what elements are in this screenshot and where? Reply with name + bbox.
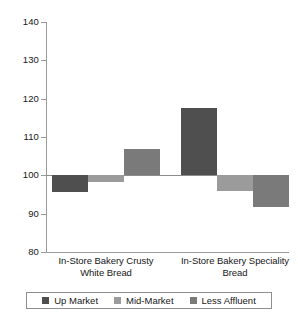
legend-label-less-affluent: Less Affluent [202, 295, 256, 306]
bar-chart: 8090100110120130140 In-Store Bakery Crus… [0, 0, 298, 318]
y-axis-line [46, 22, 47, 252]
legend-label-mid-market: Mid-Market [126, 295, 174, 306]
bar-mid-market-group-2 [217, 175, 253, 191]
bar-less-affluent-group-1 [124, 149, 160, 176]
y-tick-label: 100 [3, 170, 39, 180]
legend-swatch-icon-less-affluent [190, 297, 197, 304]
y-tick-mark [41, 22, 46, 23]
plot-area: 8090100110120130140 In-Store Bakery Crus… [0, 0, 298, 258]
bar-up-market-group-2 [181, 108, 217, 175]
category-label-line: White Bread [38, 267, 174, 279]
category-label-line: In-Store Bakery Speciality [167, 255, 298, 267]
chart-legend: Up Market Mid-Market Less Affluent [26, 292, 272, 309]
legend-swatch-icon-up-market [42, 297, 49, 304]
y-tick-label: 80 [3, 247, 39, 257]
category-label-line: Bread [167, 267, 298, 279]
y-tick-mark [41, 252, 46, 253]
category-label-2: In-Store Bakery SpecialityBread [167, 255, 298, 279]
y-tick-label: 140 [3, 17, 39, 27]
y-tick-mark [41, 214, 46, 215]
bar-up-market-group-1 [52, 175, 88, 192]
category-label-1: In-Store Bakery CrustyWhite Bread [38, 255, 174, 279]
y-tick-label: 120 [3, 94, 39, 104]
y-tick-mark [41, 137, 46, 138]
x-axis-line [46, 252, 289, 253]
category-label-line: In-Store Bakery Crusty [38, 255, 174, 267]
y-tick-mark [41, 60, 46, 61]
y-tick-label: 110 [3, 132, 39, 142]
legend-label-up-market: Up Market [54, 295, 98, 306]
legend-item-up-market: Up Market [34, 295, 106, 306]
bar-mid-market-group-1 [88, 175, 124, 182]
y-tick-label: 130 [3, 55, 39, 65]
legend-item-mid-market: Mid-Market [106, 295, 182, 306]
y-tick-label: 90 [3, 209, 39, 219]
legend-item-less-affluent: Less Affluent [182, 295, 264, 306]
y-tick-mark [41, 99, 46, 100]
bar-less-affluent-group-2 [253, 175, 289, 207]
legend-swatch-icon-mid-market [114, 297, 121, 304]
